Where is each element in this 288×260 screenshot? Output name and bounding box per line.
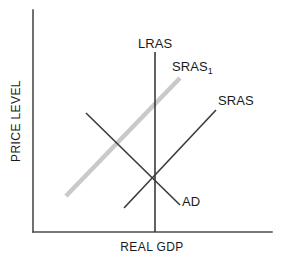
label-sras1-base: SRAS [172,59,208,74]
label-lras: LRAS [138,36,173,51]
y-axis-title: PRICE LEVEL [9,80,23,162]
label-sras: SRAS [218,93,254,108]
label-ad: AD [182,194,200,209]
ad-as-diagram: LRAS SRAS1 SRAS AD REAL GDP PRICE LEVEL [0,0,288,260]
label-sras1-subscript: 1 [208,66,213,76]
x-axis-title: REAL GDP [120,240,183,254]
label-sras1: SRAS1 [172,59,213,76]
diagram-canvas: LRAS SRAS1 SRAS AD REAL GDP PRICE LEVEL [0,0,288,260]
